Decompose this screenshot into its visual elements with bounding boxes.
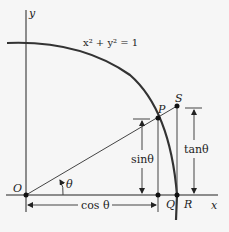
label-P: P	[157, 103, 166, 116]
label-S: S	[175, 92, 183, 105]
x-axis-label: x	[211, 199, 218, 212]
sin-label: sinθ	[131, 153, 154, 166]
cos-label: cos θ	[81, 199, 110, 212]
tan-label: tanθ	[184, 143, 209, 156]
label-R: R	[183, 198, 192, 211]
radius-line	[26, 106, 177, 195]
point-cos	[156, 193, 161, 198]
angle-arc	[60, 180, 63, 195]
unit-circle-arc	[7, 43, 177, 220]
unit-circle-diagram: sinθ tanθ cos θ θ O P S Q R x y x² + y² …	[0, 0, 229, 232]
angle-label: θ	[66, 178, 73, 191]
circle-equation: x² + y² = 1	[83, 37, 138, 48]
point-origin	[24, 193, 29, 198]
label-origin: O	[13, 182, 22, 195]
point-P	[156, 116, 161, 121]
point-R	[175, 193, 180, 198]
label-Q: Q	[166, 198, 175, 211]
y-axis-label: y	[28, 7, 36, 20]
